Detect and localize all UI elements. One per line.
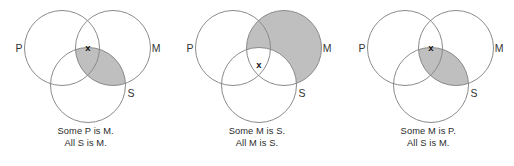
venn-diagram-3: P M S x bbox=[343, 0, 514, 126]
label-p: P bbox=[15, 43, 22, 54]
venn-diagram-figure: P M S x Some P is M. All S is M. bbox=[0, 0, 514, 166]
venn-diagram-1: P M S x bbox=[0, 0, 171, 126]
panel-caption-1: Some P is M. All S is M. bbox=[0, 126, 171, 149]
panel-caption-3: Some M is P. All S is M. bbox=[343, 126, 514, 149]
label-m: M bbox=[494, 43, 503, 54]
caption-line-2: All S is M. bbox=[0, 138, 171, 150]
x-marker: x bbox=[428, 42, 434, 53]
caption-line-2: All S is M. bbox=[343, 138, 514, 150]
caption-line-1: Some M is P. bbox=[343, 126, 514, 138]
label-p: P bbox=[187, 43, 194, 54]
label-s: S bbox=[470, 88, 477, 99]
label-m: M bbox=[152, 43, 161, 54]
label-p: P bbox=[358, 43, 365, 54]
caption-line-1: Some M is S. bbox=[171, 126, 342, 138]
x-marker: x bbox=[257, 59, 263, 70]
venn-diagram-2: P M S x bbox=[171, 0, 342, 126]
label-m: M bbox=[323, 43, 332, 54]
panel-caption-2: Some M is S. All M is S. bbox=[171, 126, 342, 149]
x-marker: x bbox=[85, 42, 91, 53]
caption-line-1: Some P is M. bbox=[0, 126, 171, 138]
label-s: S bbox=[299, 88, 306, 99]
caption-line-2: All M is S. bbox=[171, 138, 342, 150]
venn-panel-3: P M S x Some M is P. All S is M. bbox=[343, 0, 514, 166]
venn-panel-2: P M S x Some M is S. All M is S. bbox=[171, 0, 342, 166]
label-s: S bbox=[127, 88, 134, 99]
venn-panel-1: P M S x Some P is M. All S is M. bbox=[0, 0, 171, 166]
